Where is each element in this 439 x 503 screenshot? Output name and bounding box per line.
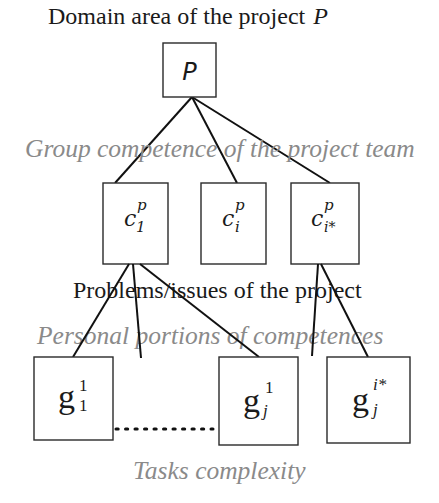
ci-symbol: c bbox=[222, 206, 234, 231]
g1j-superscript: 1 bbox=[265, 378, 274, 397]
cistar-symbol: c bbox=[311, 206, 323, 231]
node-gistarj: g i* j bbox=[327, 357, 410, 443]
node-ci: c p i bbox=[201, 183, 266, 264]
personal-portions-label: Personal portions of competences bbox=[36, 321, 383, 350]
group-competence-label: Group competence of the project team bbox=[25, 134, 415, 163]
diagram-title: Domain area of the projectP bbox=[48, 3, 328, 29]
node-c1: c p 1 bbox=[103, 183, 168, 264]
gistarj-subscript: j bbox=[371, 400, 378, 419]
node-g11: g 1 1 bbox=[34, 357, 113, 440]
gistarj-symbol: g bbox=[352, 381, 369, 418]
cistar-subscript: i* bbox=[324, 219, 335, 235]
node-g1j: g 1 j bbox=[219, 357, 298, 445]
ci-superscript: p bbox=[235, 196, 245, 214]
competence-hierarchy-diagram: Domain area of the projectP Group compet… bbox=[0, 0, 439, 503]
c1-superscript: p bbox=[137, 196, 147, 214]
g11-subscript: 1 bbox=[79, 396, 88, 415]
c1-symbol: c bbox=[124, 206, 136, 231]
root-symbol: P bbox=[182, 58, 197, 86]
g11-symbol: g bbox=[58, 378, 75, 415]
problems-label: Problems/issues of the project bbox=[73, 277, 362, 303]
ci-subscript: i bbox=[235, 218, 240, 236]
node-cistar: c p i* bbox=[291, 183, 359, 264]
g1j-symbol: g bbox=[243, 382, 260, 419]
cistar-superscript: p bbox=[324, 196, 334, 214]
g1j-subscript: j bbox=[261, 401, 268, 420]
gistarj-superscript: i* bbox=[373, 375, 387, 394]
node-root-p: P bbox=[163, 43, 216, 97]
c1-subscript: 1 bbox=[136, 218, 146, 236]
tasks-complexity-label: Tasks complexity bbox=[133, 456, 306, 485]
g11-superscript: 1 bbox=[79, 376, 88, 395]
